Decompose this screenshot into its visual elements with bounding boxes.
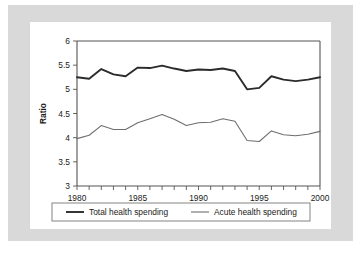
x-tick-label: 1980 <box>68 193 87 203</box>
line-chart: 33.544.555.56 19801985199019952000 Ratio… <box>30 22 331 229</box>
axis-frame <box>77 41 320 186</box>
y-tick-label: 3 <box>65 181 70 191</box>
x-axis-tick-marks <box>77 186 320 190</box>
chart-legend: Total health spendingAcute health spendi… <box>52 203 310 221</box>
y-tick-label: 3.5 <box>58 157 70 167</box>
y-tick-label: 4.5 <box>58 109 70 119</box>
x-tick-label: 2000 <box>311 193 330 203</box>
y-axis-tick-marks <box>73 41 77 186</box>
x-tick-label: 1990 <box>189 193 208 203</box>
series-line <box>77 66 320 90</box>
y-tick-label: 5 <box>65 84 70 94</box>
legend-label: Acute health spending <box>214 207 297 217</box>
legend-items: Total health spendingAcute health spendi… <box>66 207 297 217</box>
y-tick-label: 5.5 <box>58 60 70 70</box>
figure-canvas: 33.544.555.56 19801985199019952000 Ratio… <box>30 22 331 229</box>
figure-outer-frame: 33.544.555.56 19801985199019952000 Ratio… <box>8 5 353 241</box>
x-tick-label: 1985 <box>128 193 147 203</box>
series-line <box>77 114 320 141</box>
y-axis-tick-labels: 33.544.555.56 <box>58 36 70 191</box>
y-tick-label: 6 <box>65 36 70 46</box>
y-axis-title: Ratio <box>38 103 48 124</box>
x-axis-tick-labels: 19801985199019952000 <box>68 193 330 203</box>
x-tick-label: 1995 <box>250 193 269 203</box>
y-tick-label: 4 <box>65 133 70 143</box>
data-series-group <box>77 66 320 142</box>
legend-label: Total health spending <box>89 207 168 217</box>
